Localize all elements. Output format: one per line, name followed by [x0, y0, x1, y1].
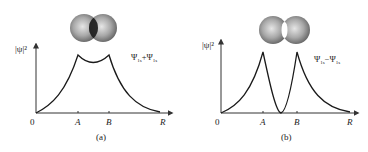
- tick-label-b: B: [294, 117, 300, 127]
- y-axis-label: |ψ|²: [15, 44, 27, 54]
- panel-b: |ψ|² 0 A B R (b) Ψ1s−Ψ1s: [202, 16, 358, 142]
- curve-label: Ψ1s+Ψ1s: [131, 52, 157, 63]
- panel-caption: (b): [281, 132, 292, 142]
- tick-label-a: A: [259, 117, 266, 127]
- panel-caption: (a): [96, 132, 106, 142]
- svg-text:Ψ1s+Ψ1s: Ψ1s+Ψ1s: [131, 52, 157, 63]
- origin-label: 0: [215, 117, 220, 127]
- y-axis-label: |ψ|²: [202, 40, 214, 50]
- figure: |ψ|² 0 A B R (a) Ψ1s+Ψ1s |ψ|² 0 A B R: [0, 0, 368, 152]
- bonding-orbital-spheres-icon: [70, 14, 117, 42]
- origin-label: 0: [30, 117, 35, 127]
- panel-a: |ψ|² 0 A B R (a) Ψ1s+Ψ1s: [15, 14, 172, 142]
- antibonding-orbital-spheres-icon: [259, 16, 310, 44]
- curve-label: Ψ1s−Ψ1s: [314, 54, 340, 65]
- x-axis-end-label: R: [159, 117, 166, 127]
- x-axis-end-label: R: [346, 117, 353, 127]
- svg-text:Ψ1s−Ψ1s: Ψ1s−Ψ1s: [314, 54, 340, 65]
- tick-label-b: B: [106, 117, 112, 127]
- bonding-density-curve: [36, 55, 160, 113]
- tick-label-a: A: [74, 117, 81, 127]
